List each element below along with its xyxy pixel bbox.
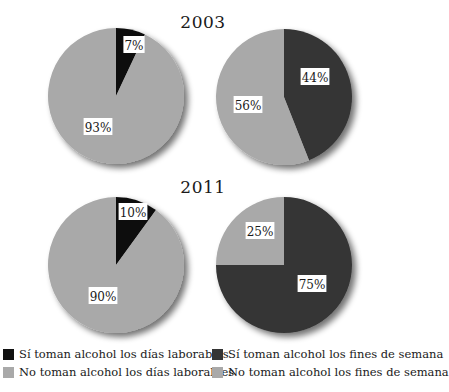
percentage-label: 75% bbox=[299, 278, 326, 292]
legend-label: Sí toman alcohol los días laborables bbox=[19, 347, 229, 361]
legend-dias-laborables: Sí toman alcohol los días laborables No … bbox=[3, 345, 234, 381]
legend-item-si-laborables: Sí toman alcohol los días laborables bbox=[3, 345, 234, 363]
legend-label: No toman alcohol los fines de semana bbox=[228, 365, 449, 379]
percentage-label: 7% bbox=[124, 39, 143, 53]
legend-item-no-laborables: No toman alcohol los días laborables bbox=[3, 363, 234, 381]
legend-swatch bbox=[3, 349, 14, 360]
legend-label: No toman alcohol los días laborables bbox=[19, 365, 234, 379]
percentage-label: 25% bbox=[247, 225, 274, 239]
legend-swatch bbox=[3, 367, 14, 378]
legend-label: Sí toman alcohol los fines de semana bbox=[228, 347, 443, 361]
legend-swatch bbox=[212, 349, 223, 360]
percentage-label: 44% bbox=[302, 71, 329, 85]
pie-2011-fines-de-semana bbox=[216, 197, 352, 333]
percentage-label: 56% bbox=[235, 99, 262, 113]
pie-slice bbox=[48, 197, 184, 333]
pie-2003-dias-laborables bbox=[48, 28, 184, 164]
legend-fines-de-semana: Sí toman alcohol los fines de semana No … bbox=[212, 345, 449, 381]
percentage-label: 90% bbox=[90, 290, 117, 304]
percentage-label: 10% bbox=[120, 206, 147, 220]
pie-2011-dias-laborables bbox=[48, 197, 184, 333]
percentage-label: 93% bbox=[85, 121, 112, 135]
legend-item-no-fines: No toman alcohol los fines de semana bbox=[212, 363, 449, 381]
pie-slice bbox=[48, 28, 184, 164]
legend-item-si-fines: Sí toman alcohol los fines de semana bbox=[212, 345, 449, 363]
legend-swatch bbox=[212, 367, 223, 378]
